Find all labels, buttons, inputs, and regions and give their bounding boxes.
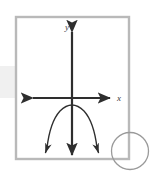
parabola-right-arrow [97, 148, 99, 153]
figure-canvas: y x [0, 0, 151, 174]
left-edge-band [0, 66, 16, 98]
parabola-figure: y x [0, 0, 151, 174]
y-axis-label: y [64, 22, 69, 32]
x-axis-label: x [116, 93, 121, 103]
parabola-left-arrow [45, 148, 47, 153]
